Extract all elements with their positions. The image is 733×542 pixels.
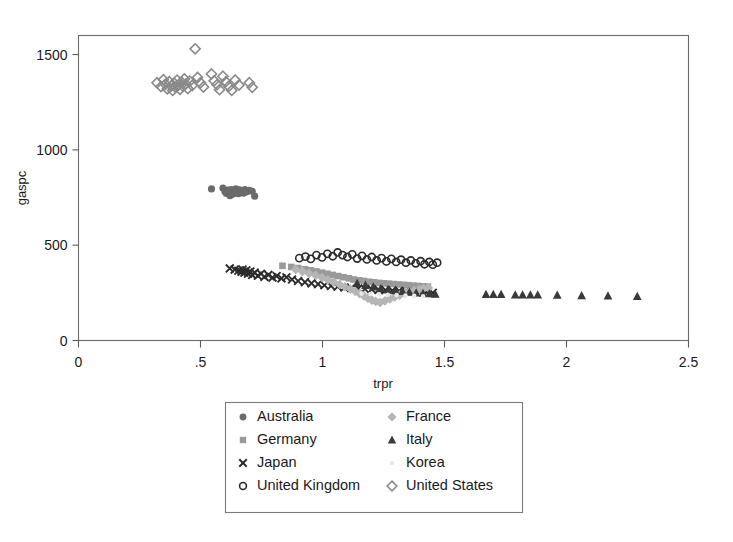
x-tick-label: .5 [195, 354, 207, 370]
data-point [412, 294, 417, 299]
data-point [633, 292, 642, 300]
legend-item-united-kingdom[interactable]: United Kingdom [240, 477, 361, 493]
series-united-states [152, 44, 257, 96]
y-tick-label: 500 [44, 237, 68, 253]
data-point [511, 290, 520, 298]
legend-marker-germany-icon [240, 437, 246, 443]
x-axis-title: trpr [373, 376, 393, 391]
legend-label: Italy [406, 431, 433, 447]
y-axis-ticks: 050010001500 [36, 47, 78, 349]
x-axis-ticks: 0.511.522.5 [75, 341, 699, 370]
data-point [489, 290, 498, 298]
x-tick-label: 2 [563, 354, 571, 370]
legend-marker-australia-icon [240, 414, 247, 421]
legend-label: United Kingdom [257, 477, 360, 493]
data-point [208, 185, 215, 192]
data-point [604, 291, 613, 299]
y-tick-label: 1000 [36, 142, 67, 158]
x-tick-label: 1.5 [435, 354, 455, 370]
data-point [394, 293, 399, 298]
data-series-group [152, 44, 642, 307]
legend-marker-korea-icon [390, 461, 394, 465]
series-australia [208, 184, 258, 199]
data-point [434, 259, 441, 266]
legend-label: France [406, 408, 451, 424]
y-tick-label: 1500 [36, 47, 67, 63]
series-united-kingdom [296, 249, 441, 268]
data-point [359, 291, 364, 296]
data-point [403, 293, 408, 298]
legend-label: Korea [406, 454, 446, 470]
data-point [421, 294, 426, 299]
x-tick-label: 0 [75, 354, 83, 370]
data-point [377, 292, 382, 297]
x-tick-label: 1 [319, 354, 327, 370]
data-point [518, 290, 527, 298]
x-tick-label: 2.5 [679, 354, 699, 370]
legend-label: United States [406, 477, 493, 493]
data-point [294, 277, 302, 285]
y-axis-title: gaspc [14, 170, 29, 205]
y-tick-label: 0 [60, 333, 68, 349]
data-point [251, 193, 258, 200]
data-point [533, 290, 542, 298]
chart-legend: AustraliaFranceGermanyItalyJapanKoreaUni… [226, 403, 523, 513]
data-point [279, 262, 286, 269]
legend-label: Germany [257, 431, 317, 447]
data-point [526, 290, 535, 298]
data-point [482, 290, 491, 298]
data-point [368, 292, 373, 297]
data-point [577, 291, 586, 299]
data-point [386, 292, 391, 297]
legend-label: Australia [257, 408, 314, 424]
data-point [553, 291, 562, 299]
legend-label: Japan [257, 454, 297, 470]
plot-canvas: 050010001500 0.511.522.5 gaspc trpr Aust… [0, 0, 733, 542]
data-point [497, 290, 506, 298]
scatter-plot-figure: 050010001500 0.511.522.5 gaspc trpr Aust… [0, 0, 733, 542]
data-point [190, 44, 200, 54]
